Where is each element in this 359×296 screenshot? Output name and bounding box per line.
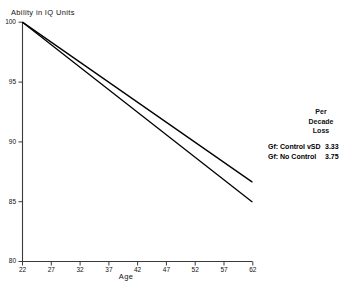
legend-header-line-1: Per [296,107,346,117]
series-line-gf-no-control [23,22,252,201]
x-tick-label-42: 42 [128,266,148,273]
x-tick-label-57: 57 [214,266,234,273]
legend-label-gf-no-control: Gf: No Control [268,153,316,160]
y-tick-label-90: 90 [2,138,16,145]
x-axis-ticks [23,262,253,266]
x-tick-label-62: 62 [243,266,263,273]
x-tick-label-27: 27 [41,266,61,273]
legend-value-gf-control-vsd: 3.33 [325,143,347,150]
x-tick-label-22: 22 [13,266,33,273]
y-axis-ticks [19,22,23,261]
x-tick-label-47: 47 [156,266,176,273]
legend-header-line-2: Decade [296,117,346,127]
x-tick-label-52: 52 [185,266,205,273]
legend-header-line-3: Loss [296,126,346,136]
y-axis-title: Ability in IQ Units [11,8,75,17]
legend-column-header: Per Decade Loss [296,107,346,136]
iq-decline-line-chart: Ability in IQ Units Age 100 95 90 85 80 … [0,0,359,296]
legend-value-gf-no-control: 3.75 [325,153,347,160]
x-tick-label-37: 37 [99,266,119,273]
y-tick-label-85: 85 [2,198,16,205]
series-line-gf-control-vsd [23,22,252,182]
y-tick-label-95: 95 [2,78,16,85]
x-tick-label-32: 32 [70,266,90,273]
legend-label-gf-control-vsd: Gf: Control vSD [268,143,321,150]
x-axis-title: Age [0,272,252,281]
y-tick-label-80: 80 [2,257,16,264]
y-tick-label-100: 100 [2,18,16,25]
